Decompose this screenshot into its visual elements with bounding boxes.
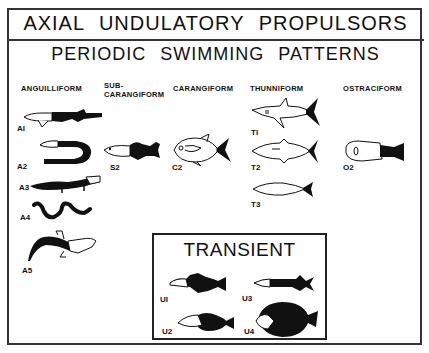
figure-label-u3: U3 xyxy=(242,294,252,303)
figure-label-s2: S2 xyxy=(110,163,120,172)
fish-a1-icon xyxy=(22,107,104,129)
fish-u3-icon xyxy=(252,273,316,295)
fish-a2-icon xyxy=(36,137,96,167)
fish-u1-icon xyxy=(168,271,228,297)
page-subtitle: PERIODIC SWIMMING PATTERNS xyxy=(7,44,424,65)
figure-label-u1: UI xyxy=(160,295,168,304)
fish-c2-icon xyxy=(171,134,235,166)
column-header-anguilliform: ANGUILLIFORM xyxy=(21,84,82,93)
figure-label-a1: AI xyxy=(17,124,25,133)
figure-label-t1: TI xyxy=(251,128,258,137)
figure-label-c2: C2 xyxy=(172,163,182,172)
fish-t2-icon xyxy=(250,137,322,165)
transient-title: TRANSIENT xyxy=(154,239,325,261)
figure-label-u2: U2 xyxy=(162,327,172,336)
fish-t1-icon xyxy=(250,96,322,130)
figure-label-a3: A3 xyxy=(19,183,29,192)
figure-label-o2: O2 xyxy=(343,163,354,172)
figure-label-t2: T2 xyxy=(251,163,260,172)
column-header-ostraciform: OSTRACIFORM xyxy=(343,84,402,93)
fish-u4-icon xyxy=(252,299,322,339)
fish-s2-icon xyxy=(102,138,164,164)
figure-label-t3: T3 xyxy=(251,200,260,209)
fish-a4-icon xyxy=(32,199,92,223)
fish-u2-icon xyxy=(176,309,238,335)
column-header-line: SUB- xyxy=(104,81,164,90)
figure-label-a5: A5 xyxy=(22,266,32,275)
column-header-subcarangiform: SUB- CARANGIFORM xyxy=(104,81,164,99)
page-title: AXIAL UNDULATORY PROPULSORS xyxy=(7,8,424,41)
fish-a3-icon xyxy=(28,172,103,194)
column-header-line: CARANGIFORM xyxy=(104,90,164,99)
column-header-carangiform: CARANGIFORM xyxy=(173,84,233,93)
column-header-thunniform: THUNNIFORM xyxy=(250,84,303,93)
figure-label-a2: A2 xyxy=(17,162,27,171)
figure-label-a4: A4 xyxy=(20,213,30,222)
fish-a5-icon xyxy=(26,229,98,263)
fish-t3-icon xyxy=(251,179,317,199)
transient-box: TRANSIENT UI U3 U2 U4 xyxy=(152,233,327,340)
figure-label-u4: U4 xyxy=(244,327,254,336)
fish-o2-icon xyxy=(342,137,408,165)
